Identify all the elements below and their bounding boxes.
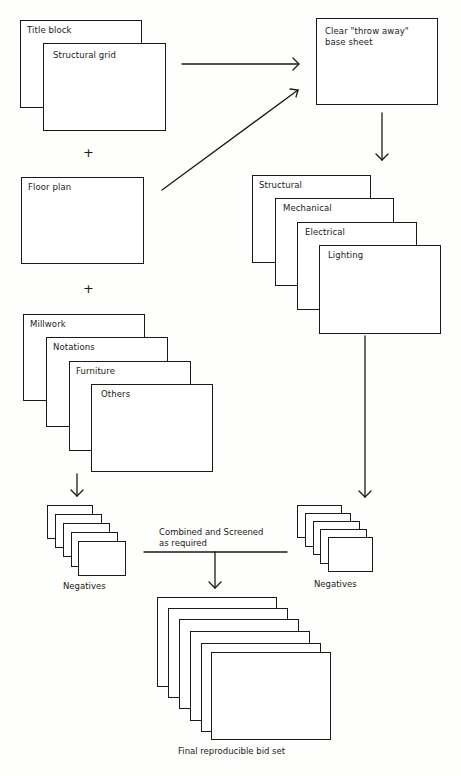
sheet-lighting: Lighting (319, 245, 441, 334)
sheet-label: Mechanical (283, 203, 332, 214)
sheet-structural-grid: Structural grid (43, 43, 166, 131)
sheet-label: Structural grid (53, 50, 116, 61)
sheet-label: Notations (53, 342, 95, 353)
sheet-label: Floor plan (28, 182, 71, 193)
sheet-label: Electrical (305, 227, 345, 238)
sheet-label: Structural (259, 180, 302, 191)
sheet-label: Others (101, 389, 130, 400)
sheet-label: Title block (27, 25, 72, 36)
negative-sheet (78, 541, 126, 576)
sheet-label: Furniture (76, 366, 115, 377)
final-bid-set-label: Final reproducible bid set (178, 746, 285, 757)
diagram-canvas: Title block Structural grid + Floor plan… (0, 0, 461, 776)
final-sheet (211, 652, 331, 740)
sheet-others: Others (91, 384, 213, 472)
sheet-base-throwaway: Clear "throw away" base sheet (316, 18, 438, 105)
sheet-label: Clear "throw away" base sheet (325, 26, 409, 48)
combine-label: Combined and Screened as required (159, 527, 263, 549)
sheet-label: Millwork (30, 319, 66, 330)
sheet-label: Lighting (328, 250, 363, 261)
negative-sheet (328, 537, 373, 572)
plus-sign: + (83, 146, 94, 159)
plus-sign: + (83, 282, 94, 295)
negatives-label-right: Negatives (314, 579, 357, 590)
sheet-floor-plan: Floor plan (21, 177, 144, 264)
negatives-label-left: Negatives (63, 581, 106, 592)
